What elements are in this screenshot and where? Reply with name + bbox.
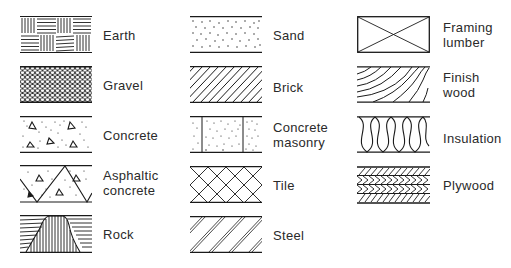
brick-hatch-icon xyxy=(190,66,262,103)
legend-label-steel: Steel xyxy=(273,228,304,243)
legend-label-earth: Earth xyxy=(103,28,136,43)
legend-label-line: Framing xyxy=(443,20,493,35)
legend-label-gravel: Gravel xyxy=(103,78,143,93)
earth-hatch-icon xyxy=(20,16,92,53)
legend-label-insulation: Insulation xyxy=(443,131,502,146)
legend-label-sand: Sand xyxy=(273,28,305,43)
concrete-masonry-hatch-icon xyxy=(190,116,262,153)
legend-label-line: Finish xyxy=(443,70,479,85)
legend-label-line: Asphaltic xyxy=(103,168,158,183)
legend-label-line: lumber xyxy=(443,35,493,50)
legend-label-line: Concrete xyxy=(273,120,328,135)
rock-hatch-icon xyxy=(20,215,92,253)
legend-label-concrete: Concrete xyxy=(103,128,158,143)
framing-lumber-hatch-icon xyxy=(357,16,430,53)
legend-label-line: wood xyxy=(443,85,479,100)
tile-hatch-icon xyxy=(190,166,262,203)
sand-hatch-icon xyxy=(190,16,262,53)
legend-label-line: masonry xyxy=(273,135,328,150)
legend-label-finish-wood: Finish wood xyxy=(443,70,479,100)
plywood-hatch-icon xyxy=(357,166,430,204)
steel-hatch-icon xyxy=(190,216,262,253)
insulation-hatch-icon xyxy=(357,116,430,153)
legend-label-line: concrete xyxy=(103,183,158,198)
gravel-hatch-icon xyxy=(20,66,92,103)
legend-label-tile: Tile xyxy=(273,178,295,193)
asphaltic-concrete-hatch-icon xyxy=(20,165,92,203)
legend-label-brick: Brick xyxy=(273,80,303,95)
legend-label-asphaltic-concrete: Asphaltic concrete xyxy=(103,168,158,198)
legend-label-framing-lumber: Framing lumber xyxy=(443,20,493,50)
legend-label-concrete-masonry: Concrete masonry xyxy=(273,120,328,150)
legend-label-plywood: Plywood xyxy=(443,178,494,193)
finish-wood-hatch-icon xyxy=(357,66,430,103)
legend-label-rock: Rock xyxy=(103,227,134,242)
concrete-hatch-icon xyxy=(20,116,92,153)
